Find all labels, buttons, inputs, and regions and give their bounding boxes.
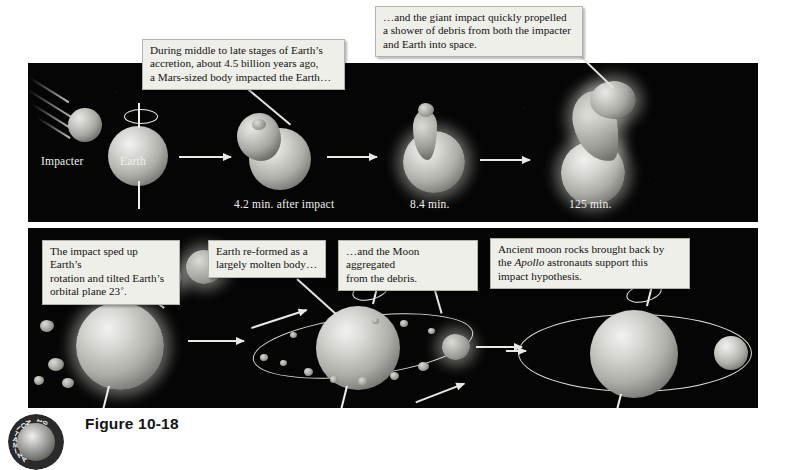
callout-rotation-line-3: orbital plane 23˚. <box>50 285 172 298</box>
moon-body <box>714 336 748 370</box>
ring-motion-arrow-bottom <box>415 383 464 404</box>
label-impacter: Impacter <box>41 155 83 167</box>
earth-body-final <box>590 310 678 398</box>
earth-body-post-impact <box>76 302 164 390</box>
earth-axis-final-lower <box>613 394 622 408</box>
callout-moon-line-2: from the debris. <box>346 272 470 285</box>
figure-caption: Figure 10-18 <box>85 415 179 433</box>
callout-rotation-line-1: The impact sped up Earth’s <box>50 245 172 272</box>
earth-rotation-axis <box>138 103 140 128</box>
callout-apollo-l2-t3: astronauts support this <box>544 256 647 268</box>
ejecta-fragment-2 <box>40 320 54 332</box>
earth-rotation-axis-lower <box>138 181 140 209</box>
proto-moon-aggregate <box>442 334 470 360</box>
process-arrow-5 <box>476 346 522 348</box>
earth-tilted-axis-lower <box>100 386 110 408</box>
callout-apollo: Ancient moon rocks brought back by the A… <box>490 238 690 289</box>
process-arrow-2 <box>327 156 377 158</box>
label-time-125-min: 125 min. <box>569 198 612 210</box>
callout-accretion-line-3: a Mars-sized body impacted the Earth… <box>150 71 337 84</box>
label-time-4-2-min: 4.2 min. after impact <box>234 198 334 210</box>
callout-apollo-line-1: Ancient moon rocks brought back by <box>498 243 682 256</box>
callout-apollo-l2-apollo: Apollo <box>514 256 544 268</box>
ejecta-fragment-4 <box>34 376 44 385</box>
callout-moon-line-1: …and the Moon aggregated <box>346 245 470 272</box>
ejecta-fragment-5 <box>62 378 74 388</box>
callout-rotation: The impact sped up Earth’s rotation and … <box>42 240 180 305</box>
callout-debris-line-3: and Earth into space. <box>383 38 575 51</box>
callout-accretion-line-2: accretion, about 4.5 billion years ago, <box>150 57 337 70</box>
label-time-8-4-min: 8.4 min. <box>410 198 450 210</box>
process-arrow-1 <box>179 156 231 158</box>
earth-axis-reformed-lower <box>338 386 348 408</box>
callout-moon: …and the Moon aggregated from the debris… <box>338 240 478 291</box>
process-arrow-3 <box>480 159 530 161</box>
callout-apollo-line-3: impact hypothesis. <box>498 270 682 283</box>
label-earth: Earth <box>120 155 146 167</box>
callout-debris-line-1: …and the giant impact quickly propelled <box>383 11 575 24</box>
process-arrow-4 <box>188 340 244 342</box>
callout-apollo-line-2: the Apollo astronauts support this <box>498 256 682 269</box>
earth-spin-indicator <box>124 109 158 124</box>
callout-debris: …and the giant impact quickly propelled … <box>375 6 583 57</box>
callout-apollo-l3-t1: impact hypothesis. <box>498 270 582 282</box>
earth-body-reformed <box>316 306 400 390</box>
callout-accretion-line-1: During middle to late stages of Earth’s <box>150 44 337 57</box>
ring-debris-7 <box>418 362 429 371</box>
ejecta-fragment-3 <box>48 358 64 371</box>
ring-debris-6 <box>390 372 399 380</box>
callout-molten-line-2: largely molten body… <box>216 258 318 271</box>
space-panel-top: Impacter Earth 4.2 min. after impact 8.4… <box>28 63 758 222</box>
impacter-body <box>68 108 102 142</box>
callout-rotation-line-2: rotation and tilted Earth’s <box>50 272 172 285</box>
callout-apollo-l2-t1: the <box>498 256 514 268</box>
animation-badge-inner-sphere <box>17 423 55 461</box>
callout-apollo-l1-t1: Ancient moon rocks brought back by <box>498 243 664 255</box>
callout-accretion: During middle to late stages of Earth’s … <box>142 39 345 90</box>
callout-molten: Earth re-formed as a largely molten body… <box>208 240 326 278</box>
animation-badge-icon: ANIMATION 10 <box>8 414 64 470</box>
callout-molten-line-1: Earth re-formed as a <box>216 245 318 258</box>
ring-motion-arrow-left <box>251 309 307 329</box>
moon-orbit-direction-arrow <box>506 350 526 352</box>
callout-debris-line-2: a shower of debris from both the impacte… <box>383 24 575 37</box>
